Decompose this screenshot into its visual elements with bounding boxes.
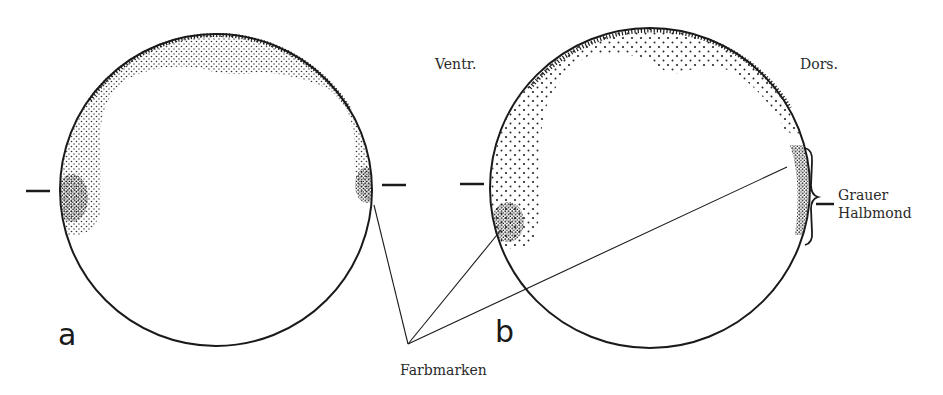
embryo-b: [460, 20, 834, 348]
dorsal-label: Dors.: [800, 56, 838, 73]
embryo-a: [26, 20, 406, 346]
pigment-cap-b: [480, 20, 820, 260]
grey-crescent-label-line1: Grauer: [838, 187, 888, 204]
embryo-diagram-figure: a b Ventr. Dors. Grauer Halbmond Farbmar…: [0, 0, 943, 395]
color-marks-label: Farbmarken: [400, 362, 487, 379]
grey-crescent-label-line2: Halbmond: [838, 205, 912, 222]
color-mark-leader-lines: [374, 167, 787, 344]
panel-label-a: a: [58, 320, 76, 350]
ventral-label: Ventr.: [435, 56, 476, 73]
pigment-cap-a: [40, 20, 400, 235]
panel-label-b: b: [495, 317, 514, 347]
